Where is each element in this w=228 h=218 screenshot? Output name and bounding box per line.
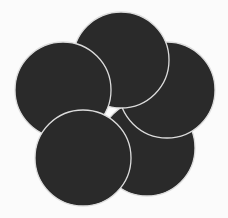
circle-bottom-left: [35, 110, 131, 206]
overlapping-circles-figure: [0, 0, 228, 218]
circles-canvas: [0, 0, 228, 218]
